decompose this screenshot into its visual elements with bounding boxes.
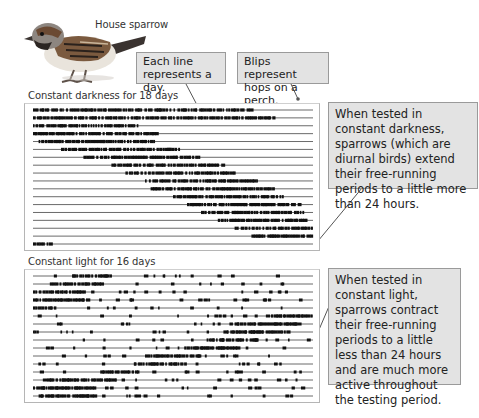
callout-darkness-note-text: When tested in constant darkness, sparro… xyxy=(335,107,466,211)
darkness-panel-title: Constant darkness for 18 days xyxy=(28,90,178,101)
callout-light-note: When tested in constant light, sparrows … xyxy=(328,268,461,385)
callout-light-note-text: When tested in constant light, sparrows … xyxy=(335,273,448,407)
callout-darkness-note: When tested in constant darkness, sparro… xyxy=(328,102,478,189)
light-actogram xyxy=(24,269,320,403)
darkness-actogram xyxy=(24,103,320,251)
light-panel-title: Constant light for 16 days xyxy=(28,256,155,267)
